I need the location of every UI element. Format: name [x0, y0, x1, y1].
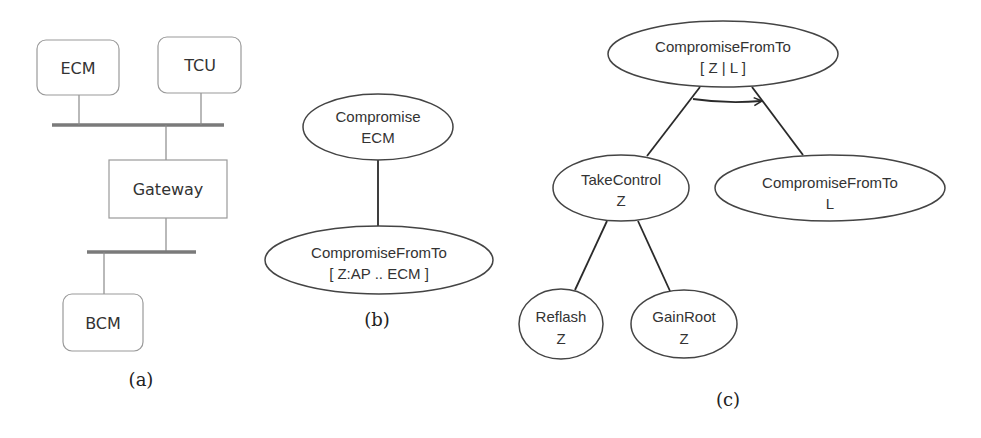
caption-a: (a)	[129, 369, 154, 390]
edge-root-to-compromise-l	[752, 87, 803, 155]
node-compromise-l-line2: L	[826, 195, 834, 212]
node-take-control-line1: TakeControl	[581, 171, 661, 188]
node-fromto-b-line1: CompromiseFromTo	[311, 244, 447, 261]
edge-root-to-takecontrol	[647, 87, 700, 156]
gateway-node: Gateway	[109, 160, 227, 218]
node-compromise-ecm: Compromise ECM	[303, 94, 453, 160]
figure-svg: ECM TCU Gateway BCM (a) Compromise ECM C…	[0, 0, 981, 438]
ecm-node: ECM	[37, 40, 119, 95]
node-fromto-b-line2: [ Z:AP .. ECM ]	[329, 265, 429, 282]
caption-c: (c)	[716, 389, 740, 410]
node-compromise-ecm-line2: ECM	[361, 129, 394, 146]
node-compromise-from-to-l: CompromiseFromTo L	[715, 155, 945, 221]
bcm-node: BCM	[63, 294, 143, 351]
node-compromise-from-to-ap-ecm: CompromiseFromTo [ Z:AP .. ECM ]	[265, 226, 493, 294]
node-reflash: Reflash Z	[519, 289, 603, 359]
node-root-line2: [ Z | L ]	[700, 59, 746, 76]
caption-b: (b)	[364, 309, 390, 330]
gateway-label: Gateway	[133, 180, 204, 199]
panel-a-network: ECM TCU Gateway BCM (a)	[37, 37, 241, 390]
node-gain-root: GainRoot Z	[631, 290, 737, 358]
edge-takecontrol-to-gainroot	[638, 221, 670, 291]
tcu-node: TCU	[158, 37, 241, 93]
node-root-line1: CompromiseFromTo	[655, 38, 791, 55]
node-root-compromise-from-to: CompromiseFromTo [ Z | L ]	[608, 21, 838, 87]
node-reflash-line2: Z	[556, 330, 565, 347]
figure: ECM TCU Gateway BCM (a) Compromise ECM C…	[0, 0, 981, 438]
node-gain-root-line2: Z	[679, 330, 688, 347]
tcu-label: TCU	[183, 56, 216, 75]
edge-takecontrol-to-reflash	[575, 221, 607, 290]
sequence-arrow-icon	[693, 99, 761, 102]
node-take-control-line2: Z	[616, 192, 625, 209]
panel-c-attack-tree: CompromiseFromTo [ Z | L ] TakeControl Z…	[519, 21, 945, 410]
ecm-label: ECM	[60, 59, 95, 78]
node-gain-root-line1: GainRoot	[652, 308, 716, 325]
node-reflash-line1: Reflash	[536, 308, 587, 325]
node-take-control: TakeControl Z	[553, 155, 689, 221]
node-compromise-ecm-line1: Compromise	[335, 108, 420, 125]
bcm-label: BCM	[85, 314, 121, 333]
panel-b-attack-tree: Compromise ECM CompromiseFromTo [ Z:AP .…	[265, 94, 493, 330]
node-compromise-l-line1: CompromiseFromTo	[762, 174, 898, 191]
